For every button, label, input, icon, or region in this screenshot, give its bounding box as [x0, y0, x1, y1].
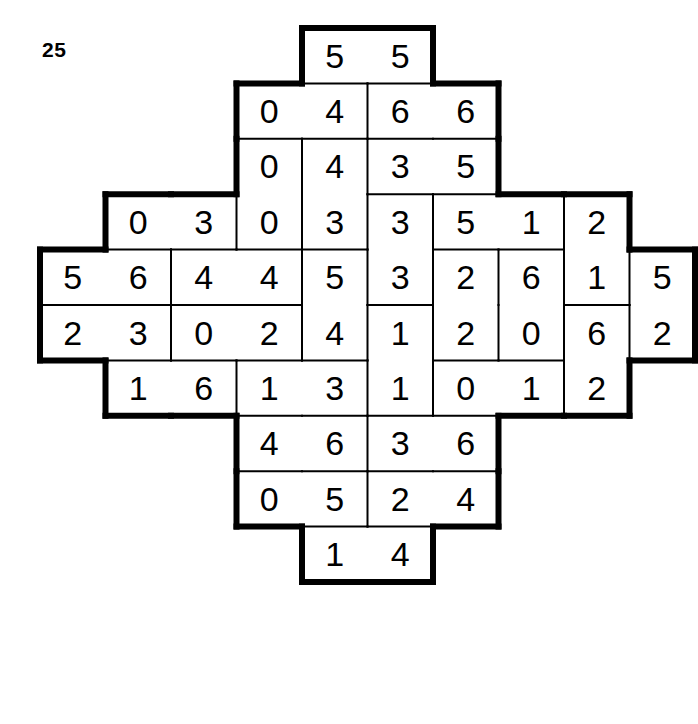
- domino-pip-value: 5: [325, 39, 344, 73]
- domino-half[interactable]: 2: [564, 360, 630, 415]
- domino-half[interactable]: 0: [499, 305, 565, 360]
- domino-pip-value: 5: [325, 260, 344, 294]
- domino-pip-value: 4: [456, 482, 475, 516]
- domino-half[interactable]: 0: [106, 194, 172, 249]
- domino-half[interactable]: 4: [237, 416, 303, 471]
- domino-pip-value: 0: [260, 94, 279, 128]
- domino-half[interactable]: 6: [564, 305, 630, 360]
- domino-half[interactable]: 2: [368, 471, 434, 526]
- domino-half[interactable]: 1: [564, 250, 630, 305]
- domino-pip-value: 3: [391, 426, 410, 460]
- domino-pip-value: 0: [260, 149, 279, 183]
- domino-half[interactable]: 6: [171, 360, 237, 415]
- domino-half[interactable]: 5: [433, 139, 499, 194]
- domino-pip-value: 2: [63, 316, 82, 350]
- domino-half[interactable]: 6: [433, 416, 499, 471]
- domino-half[interactable]: 4: [433, 471, 499, 526]
- domino-half[interactable]: 3: [302, 194, 368, 249]
- domino-half[interactable]: 1: [499, 194, 565, 249]
- domino-half[interactable]: 5: [40, 250, 106, 305]
- domino-half[interactable]: 2: [237, 305, 303, 360]
- domino-half[interactable]: 2: [630, 305, 696, 360]
- domino-half[interactable]: 1: [499, 360, 565, 415]
- domino-half[interactable]: 3: [368, 139, 434, 194]
- domino-pip-value: 5: [391, 39, 410, 73]
- domino-half[interactable]: 4: [368, 527, 434, 582]
- domino-pip-value: 6: [129, 260, 148, 294]
- domino-half[interactable]: 6: [499, 250, 565, 305]
- domino-pip-value: 3: [391, 260, 410, 294]
- domino-pip-value: 4: [260, 260, 279, 294]
- domino-pip-value: 6: [456, 426, 475, 460]
- domino-pip-value: 6: [522, 260, 541, 294]
- domino-half[interactable]: 5: [368, 28, 434, 83]
- domino-half[interactable]: 4: [302, 139, 368, 194]
- domino-half[interactable]: 0: [433, 360, 499, 415]
- domino-pip-value: 3: [325, 205, 344, 239]
- domino-half[interactable]: 3: [171, 194, 237, 249]
- domino-half[interactable]: 3: [106, 305, 172, 360]
- domino-pip-value: 1: [391, 316, 410, 350]
- domino-half[interactable]: 0: [171, 305, 237, 360]
- domino-pip-value: 4: [194, 260, 213, 294]
- domino-half[interactable]: 1: [368, 360, 434, 415]
- domino-pip-value: 0: [194, 316, 213, 350]
- domino-pip-value: 6: [587, 316, 606, 350]
- domino-pip-value: 5: [456, 149, 475, 183]
- domino-half[interactable]: 1: [237, 360, 303, 415]
- domino-half[interactable]: 3: [368, 194, 434, 249]
- domino-half[interactable]: 1: [106, 360, 172, 415]
- domino-half[interactable]: 4: [302, 305, 368, 360]
- domino-half[interactable]: 6: [302, 416, 368, 471]
- domino-pip-value: 6: [456, 94, 475, 128]
- domino-puzzle: 25 5504660435030335125644532615230241206…: [0, 0, 698, 724]
- domino-pip-value: 1: [522, 371, 541, 405]
- domino-half[interactable]: 5: [433, 194, 499, 249]
- domino-pip-value: 2: [587, 205, 606, 239]
- domino-half[interactable]: 5: [302, 250, 368, 305]
- domino-pip-value: 3: [391, 149, 410, 183]
- domino-pip-value: 2: [653, 316, 672, 350]
- domino-half[interactable]: 6: [368, 83, 434, 138]
- domino-pip-value: 2: [456, 316, 475, 350]
- domino-half[interactable]: 2: [433, 250, 499, 305]
- domino-pip-value: 6: [325, 426, 344, 460]
- domino-half[interactable]: 3: [368, 416, 434, 471]
- domino-pip-value: 1: [129, 371, 148, 405]
- domino-half[interactable]: 3: [302, 360, 368, 415]
- domino-pip-value: 5: [63, 260, 82, 294]
- domino-pip-value: 5: [456, 205, 475, 239]
- domino-half[interactable]: 0: [237, 83, 303, 138]
- domino-half[interactable]: 5: [630, 250, 696, 305]
- domino-half[interactable]: 3: [368, 250, 434, 305]
- domino-pip-value: 0: [260, 482, 279, 516]
- domino-half[interactable]: 0: [237, 471, 303, 526]
- domino-pip-value: 3: [129, 316, 148, 350]
- domino-half[interactable]: 2: [40, 305, 106, 360]
- domino-half[interactable]: 4: [302, 83, 368, 138]
- domino-half[interactable]: 0: [237, 194, 303, 249]
- domino-pip-value: 3: [194, 205, 213, 239]
- domino-half[interactable]: 4: [237, 250, 303, 305]
- domino-half[interactable]: 2: [433, 305, 499, 360]
- domino-half[interactable]: 4: [171, 250, 237, 305]
- domino-half[interactable]: 6: [433, 83, 499, 138]
- domino-pip-value: 6: [391, 94, 410, 128]
- domino-pip-value: 2: [260, 316, 279, 350]
- domino-pip-value: 4: [325, 94, 344, 128]
- domino-pip-value: 1: [325, 537, 344, 571]
- domino-pip-value: 4: [391, 537, 410, 571]
- domino-pip-value: 0: [522, 316, 541, 350]
- domino-half[interactable]: 0: [237, 139, 303, 194]
- domino-pip-value: 5: [653, 260, 672, 294]
- domino-pip-value: 4: [260, 426, 279, 460]
- domino-half[interactable]: 2: [564, 194, 630, 249]
- domino-pip-value: 0: [260, 205, 279, 239]
- domino-half[interactable]: 5: [302, 471, 368, 526]
- domino-half[interactable]: 6: [106, 250, 172, 305]
- domino-pip-value: 1: [391, 371, 410, 405]
- domino-half[interactable]: 1: [368, 305, 434, 360]
- domino-half[interactable]: 1: [302, 527, 368, 582]
- domino-half[interactable]: 5: [302, 28, 368, 83]
- domino-pip-value: 0: [456, 371, 475, 405]
